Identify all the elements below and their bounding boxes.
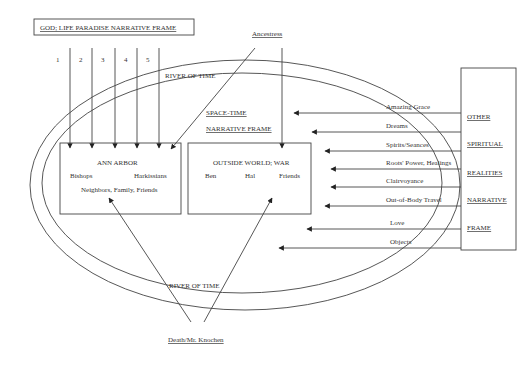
- other-frame-label-1: OTHER: [467, 113, 491, 121]
- death-label: Death/Mr. Knochen: [168, 336, 224, 344]
- ancestress-arrow-diag: [171, 48, 255, 149]
- ann-arbor-harkissians: Harkissians: [134, 172, 167, 180]
- ann-arbor-bishops: Bishops: [70, 172, 93, 180]
- river-inner-ellipse: [42, 73, 442, 293]
- river-outer-ellipse: [30, 60, 460, 310]
- outside-world-hal: Hal: [245, 172, 255, 180]
- number-label-1: 1: [56, 56, 60, 64]
- spiritual-arrows: [279, 113, 461, 248]
- other-frame-label-5: FRAME: [467, 224, 491, 232]
- number-label-4: 4: [124, 56, 128, 64]
- label-objects: Objects: [390, 238, 412, 246]
- outside-world-title: OUTSIDE WORLD; WAR: [213, 159, 290, 167]
- label-roots: Roots' Power, Healings: [386, 159, 452, 167]
- space-time-label-2: NARRATIVE FRAME: [206, 125, 272, 133]
- label-amazing-grace: Amazing Grace: [386, 103, 430, 111]
- number-label-2: 2: [79, 56, 83, 64]
- ann-arbor-title: ANN ARBOR: [97, 159, 138, 167]
- death-arrow-right: [204, 198, 272, 322]
- label-clairvoyance: Clairvoyance: [386, 177, 423, 185]
- other-frame-label-2: SPIRITUAL: [467, 140, 503, 148]
- ancestress-label: Ancestress: [252, 30, 283, 38]
- label-love: Love: [390, 219, 404, 227]
- label-dreams: Dreams: [386, 122, 408, 130]
- ann-arbor-neighbors: Neighbors, Family, Friends: [81, 186, 158, 194]
- outside-world-friends: Friends: [279, 172, 300, 180]
- river-of-time-top: RIVER OF TIME: [165, 72, 215, 80]
- other-frame-label-4: NARRATIVE: [467, 196, 507, 204]
- death-arrow-left: [109, 198, 191, 322]
- label-oob: Out-of-Body Travel: [386, 196, 442, 204]
- river-of-time-bottom: RIVER OF TIME: [169, 282, 219, 290]
- number-label-5: 5: [146, 56, 150, 64]
- other-frame-label-3: REALITIES: [467, 169, 502, 177]
- diagram-canvas: GOD; LIFE PARADISE NARRATIVE FRAME 1 2 3…: [0, 0, 521, 366]
- space-time-label-1: SPACE-TIME: [206, 109, 247, 117]
- label-spirits: Spirits/Seances: [386, 141, 429, 149]
- title-text: GOD; LIFE PARADISE NARRATIVE FRAME: [40, 24, 176, 32]
- outside-world-ben: Ben: [205, 172, 217, 180]
- other-frame-box: [461, 68, 516, 250]
- number-label-3: 3: [101, 56, 105, 64]
